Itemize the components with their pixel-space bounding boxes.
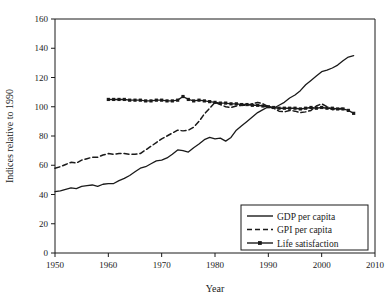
- series-gdp-per-capita: [55, 56, 354, 192]
- data-point-marker: [331, 107, 334, 110]
- y-axis-tick-labels: 020406080100120140160: [35, 14, 49, 258]
- data-point-marker: [208, 100, 211, 103]
- legend-marker-swatch: [258, 241, 262, 245]
- data-point-marker: [261, 104, 264, 107]
- data-point-marker: [341, 107, 344, 110]
- x-tick-label: 1960: [99, 260, 118, 270]
- data-point-marker: [277, 107, 280, 110]
- data-point-marker: [144, 99, 147, 102]
- data-point-marker: [293, 107, 296, 110]
- data-point-marker: [320, 106, 323, 109]
- data-point-marker: [352, 112, 355, 115]
- x-tick-label: 1980: [206, 260, 225, 270]
- data-point-marker: [315, 107, 318, 110]
- x-axis-title: Year: [206, 283, 225, 294]
- data-point-marker: [107, 98, 110, 101]
- legend-label: GPI per capita: [277, 225, 333, 235]
- data-point-marker: [224, 101, 227, 104]
- y-tick-label: 60: [39, 160, 49, 170]
- data-point-marker: [176, 99, 179, 102]
- data-point-marker: [245, 103, 248, 106]
- x-tick-label: 2000: [313, 260, 332, 270]
- y-tick-label: 80: [39, 131, 49, 141]
- data-point-marker: [240, 103, 243, 106]
- data-point-marker: [203, 99, 206, 102]
- x-axis-tick-labels: 1950196019701980199020002010: [46, 260, 385, 270]
- x-tick-label: 1970: [153, 260, 172, 270]
- data-point-marker: [128, 99, 131, 102]
- data-point-marker: [283, 107, 286, 110]
- series-gpi-per-capita: [55, 102, 343, 168]
- data-point-marker: [192, 99, 195, 102]
- data-point-marker: [171, 99, 174, 102]
- data-point-marker: [187, 98, 190, 101]
- data-point-marker: [213, 101, 216, 104]
- data-point-marker: [251, 104, 254, 107]
- legend-label: Life satisfaction: [277, 239, 339, 249]
- data-point-marker: [165, 99, 168, 102]
- data-point-marker: [133, 99, 136, 102]
- chart-series: [55, 56, 355, 192]
- x-tick-label: 1950: [46, 260, 65, 270]
- data-point-marker: [304, 107, 307, 110]
- data-point-marker: [181, 95, 184, 98]
- y-tick-label: 20: [39, 219, 49, 229]
- data-point-marker: [325, 107, 328, 110]
- y-tick-label: 160: [35, 14, 49, 24]
- data-point-marker: [256, 104, 259, 107]
- data-point-marker: [219, 101, 222, 104]
- data-point-marker: [117, 98, 120, 101]
- x-tick-label: 2010: [366, 260, 385, 270]
- chart-legend: GDP per capitaGPI per capitaLife satisfa…: [241, 205, 368, 250]
- line-chart: 020406080100120140160 195019601970198019…: [0, 0, 392, 302]
- x-tick-label: 1990: [259, 260, 278, 270]
- data-point-marker: [336, 107, 339, 110]
- chart-container: 020406080100120140160 195019601970198019…: [0, 0, 392, 302]
- data-point-marker: [112, 98, 115, 101]
- legend-label: GDP per capita: [277, 212, 336, 222]
- data-point-marker: [347, 109, 350, 112]
- data-point-marker: [123, 98, 126, 101]
- y-tick-label: 120: [35, 73, 49, 83]
- data-point-marker: [229, 102, 232, 105]
- data-point-marker: [149, 99, 152, 102]
- data-point-marker: [155, 99, 158, 102]
- y-tick-label: 140: [35, 43, 49, 53]
- data-point-marker: [197, 99, 200, 102]
- y-tick-label: 100: [35, 102, 49, 112]
- y-tick-label: 0: [44, 248, 49, 258]
- y-axis-title: Indices relative to 1990: [4, 89, 15, 183]
- y-tick-label: 40: [39, 190, 49, 200]
- data-point-marker: [299, 107, 302, 110]
- data-point-marker: [272, 106, 275, 109]
- data-point-marker: [160, 99, 163, 102]
- data-point-marker: [309, 106, 312, 109]
- data-point-marker: [235, 102, 238, 105]
- data-point-marker: [288, 107, 291, 110]
- data-point-marker: [267, 105, 270, 108]
- data-point-marker: [139, 99, 142, 102]
